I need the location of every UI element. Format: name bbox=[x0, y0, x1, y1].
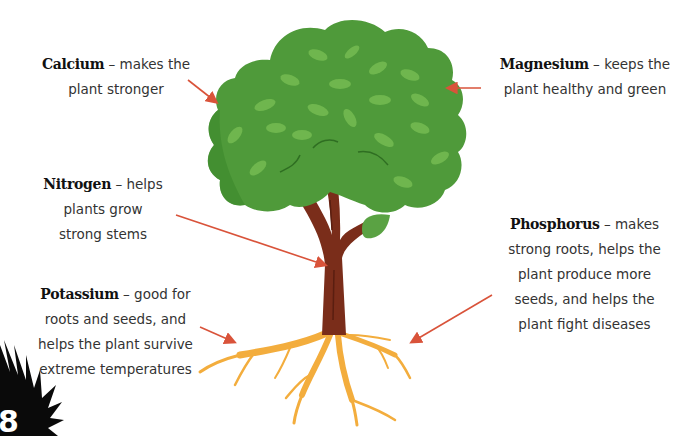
phosphorus-label: Phosphorus – makes strong roots, helps t… bbox=[492, 212, 677, 337]
foliage bbox=[208, 20, 466, 212]
magnesium-term: Magnesium bbox=[500, 56, 589, 72]
magnesium-label: Magnesium – keeps the plant healthy and … bbox=[490, 52, 680, 102]
roots bbox=[200, 333, 410, 425]
nitrogen-label: Nitrogen – helps plants grow strong stem… bbox=[28, 172, 178, 247]
calcium-label: Calcium – makes the plant stronger bbox=[28, 52, 204, 102]
potassium-arrow bbox=[200, 327, 234, 342]
potassium-term: Potassium bbox=[40, 286, 118, 302]
phosphorus-arrow bbox=[412, 295, 492, 342]
potassium-label: Potassium – good for roots and seeds, an… bbox=[28, 282, 203, 382]
calcium-term: Calcium bbox=[42, 56, 104, 72]
side-leaf bbox=[362, 214, 390, 238]
nitrogen-arrow bbox=[176, 215, 325, 265]
nitrogen-term: Nitrogen bbox=[43, 176, 111, 192]
phosphorus-term: Phosphorus bbox=[510, 216, 600, 232]
page-number: 8 bbox=[0, 404, 19, 436]
